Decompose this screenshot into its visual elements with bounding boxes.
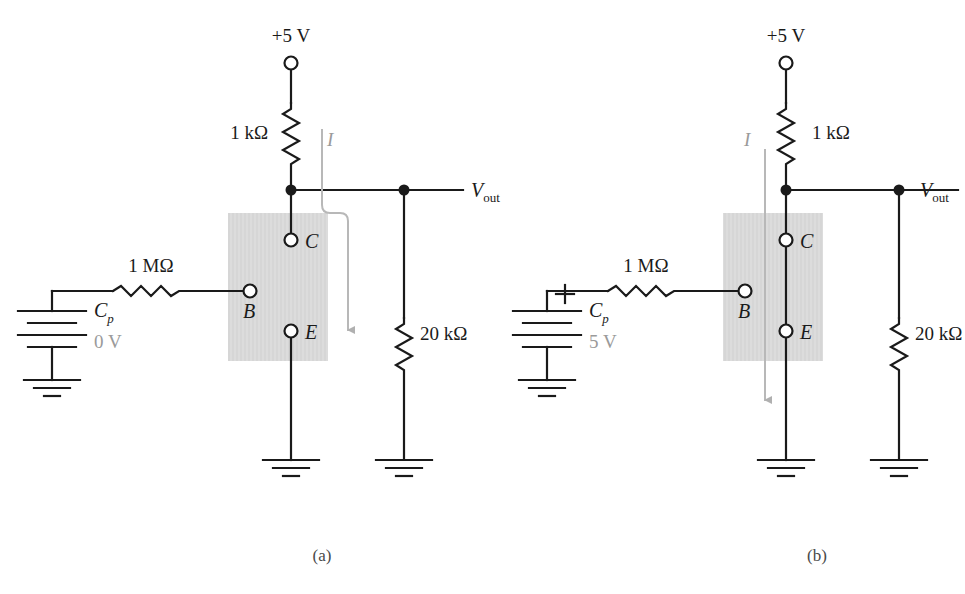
junction-dot-collector-b [781, 185, 792, 196]
supply-terminal-a [285, 57, 298, 70]
junction-dot-vout-b [894, 185, 905, 196]
cap-voltage-label-b: 5 V [589, 331, 617, 352]
base-label-a: B [243, 300, 255, 322]
junction-dot-collector-a [286, 185, 297, 196]
panel-caption-b: (b) [807, 546, 827, 565]
resistor-1k-b [778, 103, 794, 190]
base-terminal-a [244, 285, 257, 298]
output-label-b: Vout [920, 179, 949, 205]
supply-label-b: +5 V [767, 25, 806, 46]
panel-a [18, 57, 463, 477]
resistor-1k-a [283, 103, 299, 190]
base-terminal-b [739, 285, 752, 298]
supply-label-a: +5 V [272, 25, 311, 46]
panel-caption-a: (a) [313, 546, 332, 565]
pullup-resistor-label-b: 1 kΩ [812, 122, 850, 143]
base-resistor-label-a: 1 MΩ [128, 255, 173, 276]
pulldown-resistor-label-a: 20 kΩ [420, 323, 467, 344]
collector-terminal-b [780, 234, 793, 247]
collector-label-a: C [305, 230, 319, 252]
collector-label-b: C [800, 230, 814, 252]
base-resistor-label-b: 1 MΩ [623, 255, 668, 276]
emitter-terminal-b [780, 325, 793, 338]
emitter-label-b: E [799, 321, 812, 343]
circuit-figure: +5 V 1 kΩ 20 kΩ 1 MΩ Vout I Cp 0 V C B E… [0, 0, 965, 594]
collector-terminal-a [285, 234, 298, 247]
pulldown-resistor-label-b: 20 kΩ [915, 323, 962, 344]
resistor-20k-b [891, 318, 907, 460]
emitter-terminal-a [285, 325, 298, 338]
current-label-a: I [326, 129, 335, 150]
pullup-resistor-label-a: 1 kΩ [230, 122, 268, 143]
cap-label-a: Cp [94, 299, 114, 326]
emitter-label-a: E [304, 321, 317, 343]
junction-dot-vout-a [399, 185, 410, 196]
base-label-b: B [738, 300, 750, 322]
resistor-20k-a [396, 318, 412, 460]
cap-voltage-label-a: 0 V [94, 331, 122, 352]
resistor-1m-a [113, 286, 185, 296]
figure-canvas: +5 V 1 kΩ 20 kΩ 1 MΩ Vout I Cp 0 V C B E… [0, 0, 965, 594]
panel-b [513, 57, 958, 477]
output-label-a: Vout [471, 179, 500, 205]
cap-label-b: Cp [589, 299, 609, 326]
supply-terminal-b [780, 57, 793, 70]
current-label-b: I [743, 129, 752, 150]
resistor-1m-b [608, 286, 680, 296]
